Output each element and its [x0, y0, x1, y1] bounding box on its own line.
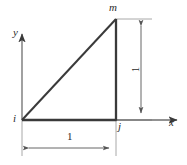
dimension-lines: [29, 26, 141, 148]
axis-label-x: x: [169, 117, 174, 128]
axis-label-y: y: [13, 27, 18, 38]
node-label-j: j: [118, 121, 121, 132]
triangle-side-im: [22, 19, 116, 120]
geometry-figure: m i j y x 1 1: [0, 0, 187, 165]
extension-lines: [22, 19, 152, 156]
coordinate-axes: [22, 34, 177, 120]
node-label-i: i: [13, 113, 16, 124]
node-label-m: m: [109, 2, 117, 13]
dimension-label-bottom: 1: [67, 131, 73, 142]
diagram-canvas: [0, 0, 187, 165]
dimension-label-right: 1: [130, 67, 141, 73]
triangle-element: [22, 19, 117, 121]
